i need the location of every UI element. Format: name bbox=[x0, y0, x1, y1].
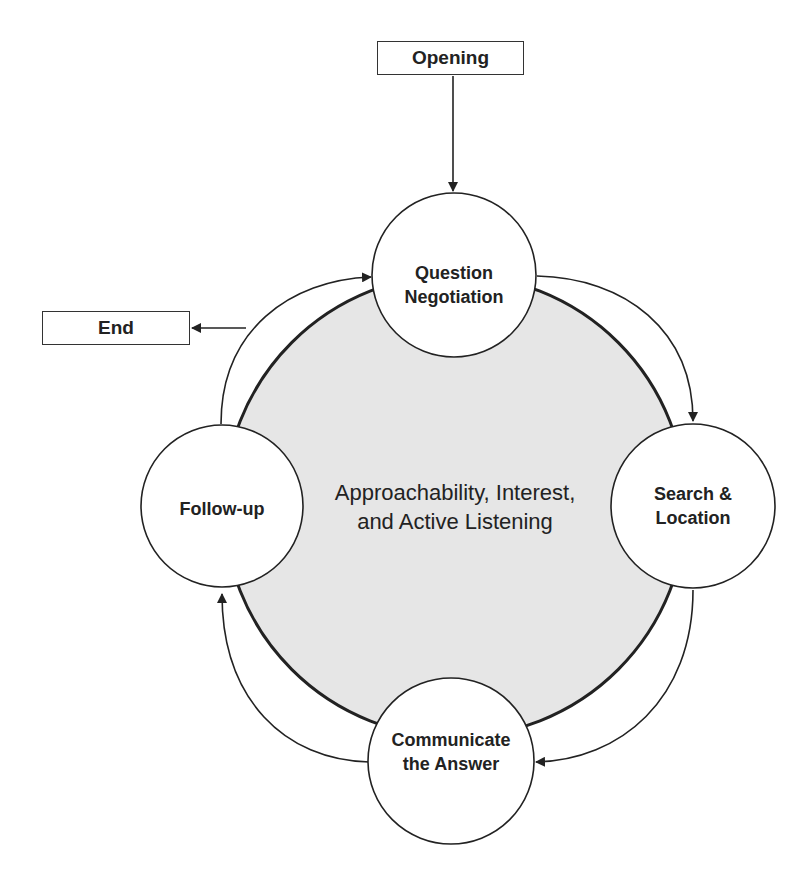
opening-label: Opening bbox=[412, 47, 489, 69]
question-negotiation-label: Question Negotiation bbox=[405, 261, 504, 309]
core-label: Approachability, Interest, and Active Li… bbox=[335, 478, 576, 536]
follow-up-label: Follow-up bbox=[180, 497, 265, 521]
search-location-label: Search & Location bbox=[654, 482, 732, 530]
communicate-answer-label: Communicate the Answer bbox=[391, 728, 510, 776]
end-label: End bbox=[98, 317, 134, 339]
opening-box: Opening bbox=[377, 41, 524, 75]
end-box: End bbox=[42, 311, 190, 345]
